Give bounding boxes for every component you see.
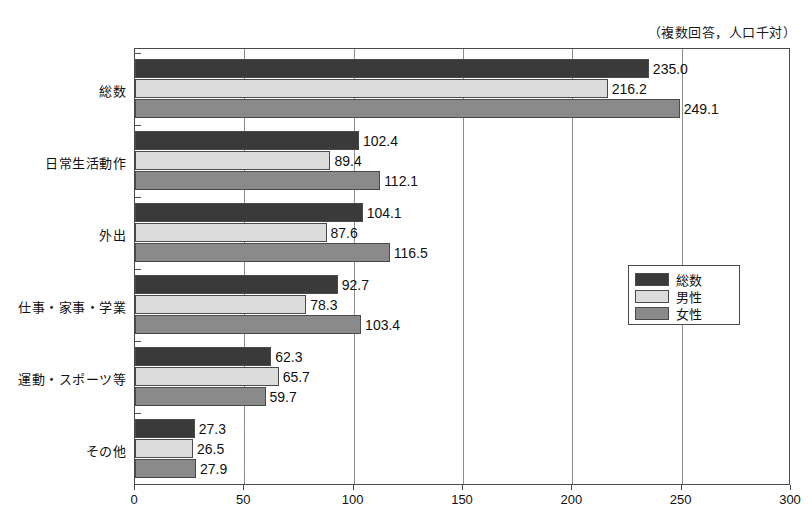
unit-note: （複数回答，人口千対） [648, 22, 797, 41]
bar-value-label: 65.7 [279, 369, 310, 385]
bar-row: 235.0 [135, 59, 789, 78]
category-label-0: 総数 [99, 81, 126, 100]
x-tick-mark [353, 485, 354, 490]
chart-legend: 総数男性女性 [628, 265, 740, 325]
bar-value-label: 89.4 [330, 153, 361, 169]
bar-row: 26.5 [135, 439, 789, 458]
x-tick-mark [134, 485, 135, 490]
bar-row: 59.7 [135, 387, 789, 406]
bar-総数-外出[interactable] [135, 203, 363, 222]
group-separator-tick [135, 125, 141, 126]
bar-value-label: 92.7 [338, 277, 369, 293]
x-tick-label: 100 [342, 492, 364, 507]
bar-総数-日常生活動作[interactable] [135, 131, 359, 150]
bar-value-label: 235.0 [649, 61, 688, 77]
bar-男性-運動・スポーツ等[interactable] [135, 367, 279, 386]
group-separator-tick [135, 413, 141, 414]
x-tick-mark [790, 485, 791, 490]
bar-row: 65.7 [135, 367, 789, 386]
bar-value-label: 249.1 [680, 101, 719, 117]
bar-row: 102.4 [135, 131, 789, 150]
x-tick-mark [571, 485, 572, 490]
x-tick-mark [243, 485, 244, 490]
group-separator-tick [135, 341, 141, 342]
bar-男性-日常生活動作[interactable] [135, 151, 330, 170]
bar-総数-運動・スポーツ等[interactable] [135, 347, 271, 366]
bar-value-label: 104.1 [363, 205, 402, 221]
bar-男性-仕事・家事・学業[interactable] [135, 295, 306, 314]
bar-row: 89.4 [135, 151, 789, 170]
bar-総数-その他[interactable] [135, 419, 195, 438]
category-label-4: 運動・スポーツ等 [18, 369, 126, 388]
bar-value-label: 87.6 [327, 225, 358, 241]
category-label-3: 仕事・家事・学業 [18, 297, 126, 316]
group-separator-tick [135, 269, 141, 270]
bar-value-label: 116.5 [390, 245, 428, 261]
bar-女性-その他[interactable] [135, 459, 196, 478]
bar-row: 216.2 [135, 79, 789, 98]
legend-item-女性[interactable]: 女性 [635, 305, 733, 321]
bar-value-label: 103.4 [361, 317, 400, 333]
x-tick-label: 300 [779, 492, 801, 507]
category-label-5: その他 [86, 441, 127, 460]
bar-女性-仕事・家事・学業[interactable] [135, 315, 361, 334]
bar-女性-運動・スポーツ等[interactable] [135, 387, 266, 406]
bar-総数-総数[interactable] [135, 59, 649, 78]
x-tick-label: 150 [451, 492, 473, 507]
bar-value-label: 27.3 [195, 421, 226, 437]
bar-value-label: 78.3 [306, 297, 337, 313]
bar-row: 249.1 [135, 99, 789, 118]
bar-男性-総数[interactable] [135, 79, 608, 98]
bar-女性-総数[interactable] [135, 99, 680, 118]
bar-row: 27.3 [135, 419, 789, 438]
legend-label: 女性 [676, 304, 702, 323]
x-tick-label: 200 [560, 492, 582, 507]
legend-item-総数[interactable]: 総数 [635, 271, 733, 287]
bar-value-label: 112.1 [380, 173, 418, 189]
legend-item-男性[interactable]: 男性 [635, 288, 733, 304]
x-tick-label: 50 [236, 492, 250, 507]
bar-row: 87.6 [135, 223, 789, 242]
bar-value-label: 26.5 [193, 441, 224, 457]
bar-value-label: 27.9 [196, 461, 227, 477]
category-label-1: 日常生活動作 [45, 153, 126, 172]
bar-value-label: 59.7 [266, 389, 297, 405]
bar-value-label: 62.3 [271, 349, 302, 365]
bar-row: 104.1 [135, 203, 789, 222]
bar-総数-仕事・家事・学業[interactable] [135, 275, 338, 294]
x-tick-label: 0 [130, 492, 137, 507]
bar-row: 27.9 [135, 459, 789, 478]
x-tick-label: 250 [670, 492, 692, 507]
bar-value-label: 102.4 [359, 133, 398, 149]
group-separator-tick [135, 197, 141, 198]
category-label-2: 外出 [99, 225, 126, 244]
bar-row: 112.1 [135, 171, 789, 190]
x-tick-mark [462, 485, 463, 490]
bar-row: 62.3 [135, 347, 789, 366]
bar-row: 116.5 [135, 243, 789, 262]
bar-value-label: 216.2 [608, 81, 647, 97]
legend-swatch-icon [635, 307, 669, 320]
bar-男性-外出[interactable] [135, 223, 327, 242]
legend-swatch-icon [635, 290, 669, 303]
legend-swatch-icon [635, 273, 669, 286]
x-tick-mark [681, 485, 682, 490]
bar-女性-日常生活動作[interactable] [135, 171, 380, 190]
bar-男性-その他[interactable] [135, 439, 193, 458]
group-separator-tick [135, 53, 141, 54]
bar-女性-外出[interactable] [135, 243, 390, 262]
